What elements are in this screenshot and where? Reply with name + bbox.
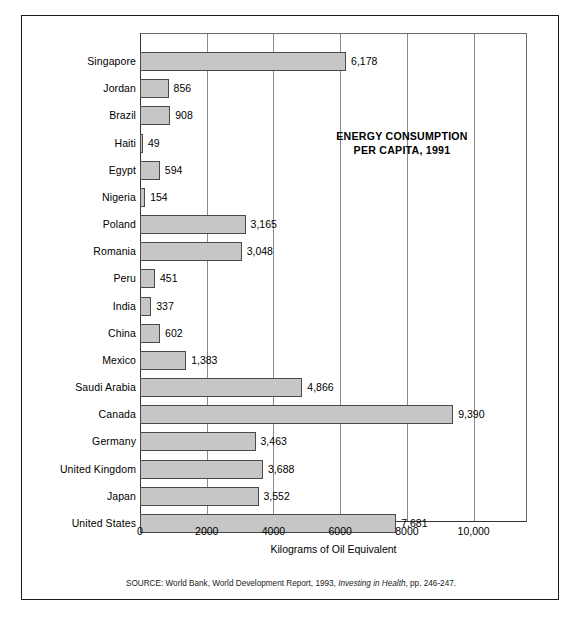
category-label-singapore: Singapore: [87, 48, 136, 75]
bar-germany[interactable]: [140, 432, 256, 451]
bar-peru[interactable]: [140, 269, 155, 288]
chart-row[interactable]: Canada9,390: [22, 401, 560, 428]
bar-value-japan: 3,552: [264, 483, 290, 510]
chart-row[interactable]: Mexico1,383: [22, 347, 560, 374]
category-label-jordan: Jordan: [103, 75, 136, 102]
x-tick-label-6000: 6000: [328, 525, 351, 537]
bar-china[interactable]: [140, 324, 160, 343]
source-suffix: , pp. 246-247.: [406, 579, 457, 588]
chart-row[interactable]: United Kingdom3,688: [22, 456, 560, 483]
category-label-united-kingdom: United Kingdom: [60, 456, 136, 483]
chart-row[interactable]: Japan3,552: [22, 483, 560, 510]
bar-jordan[interactable]: [140, 79, 169, 98]
category-label-peru: Peru: [113, 265, 136, 292]
source-title-italic: Investing in Health: [338, 579, 405, 588]
bar-nigeria[interactable]: [140, 188, 145, 207]
source-note: SOURCE: World Bank, World Development Re…: [22, 579, 560, 588]
bar-value-united-kingdom: 3,688: [268, 456, 294, 483]
chart-row[interactable]: Poland3,165: [22, 211, 560, 238]
chart-rows: Singapore6,178Jordan856Brazil908Haiti49E…: [22, 48, 560, 537]
bar-chart: Singapore6,178Jordan856Brazil908Haiti49E…: [22, 16, 560, 601]
category-label-saudi-arabia: Saudi Arabia: [75, 374, 136, 401]
x-tick-label-10000: 10,000: [458, 525, 490, 537]
category-label-japan: Japan: [107, 483, 136, 510]
category-label-haiti: Haiti: [114, 130, 136, 157]
bar-value-canada: 9,390: [458, 401, 484, 428]
chart-row[interactable]: Brazil908: [22, 102, 560, 129]
chart-title-line2: PER CAPITA, 1991: [302, 143, 502, 157]
category-label-romania: Romania: [93, 238, 136, 265]
bar-value-brazil: 908: [175, 102, 193, 129]
chart-row[interactable]: Germany3,463: [22, 428, 560, 455]
bar-value-jordan: 856: [174, 75, 192, 102]
category-label-egypt: Egypt: [109, 157, 136, 184]
bar-romania[interactable]: [140, 242, 242, 261]
bar-value-china: 602: [165, 320, 183, 347]
category-label-india: India: [113, 293, 136, 320]
source-prefix: SOURCE: World Bank, World Development Re…: [126, 579, 338, 588]
bar-value-romania: 3,048: [247, 238, 273, 265]
bar-value-mexico: 1,383: [191, 347, 217, 374]
x-axis-title: Kilograms of Oil Equivalent: [140, 543, 527, 555]
chart-row[interactable]: Saudi Arabia4,866: [22, 374, 560, 401]
bar-brazil[interactable]: [140, 106, 170, 125]
chart-row[interactable]: Romania3,048: [22, 238, 560, 265]
x-tick-label-0: 0: [137, 525, 143, 537]
bar-india[interactable]: [140, 297, 151, 316]
bar-singapore[interactable]: [140, 52, 346, 71]
bar-poland[interactable]: [140, 215, 246, 234]
bar-value-saudi-arabia: 4,866: [307, 374, 333, 401]
bar-value-germany: 3,463: [261, 428, 287, 455]
bar-mexico[interactable]: [140, 351, 186, 370]
bar-value-peru: 451: [160, 265, 178, 292]
category-label-germany: Germany: [92, 428, 136, 455]
chart-row[interactable]: Singapore6,178: [22, 48, 560, 75]
chart-title-line1: ENERGY CONSUMPTION: [302, 129, 502, 143]
bar-value-nigeria: 154: [150, 184, 168, 211]
x-tick-label-2000: 2000: [195, 525, 218, 537]
chart-row[interactable]: China602: [22, 320, 560, 347]
bar-egypt[interactable]: [140, 161, 160, 180]
chart-row[interactable]: Nigeria154: [22, 184, 560, 211]
chart-title: ENERGY CONSUMPTION PER CAPITA, 1991: [302, 129, 502, 157]
category-label-canada: Canada: [99, 401, 136, 428]
chart-row[interactable]: India337: [22, 293, 560, 320]
category-label-nigeria: Nigeria: [102, 184, 136, 211]
bar-haiti[interactable]: [140, 134, 143, 153]
bar-value-poland: 3,165: [251, 211, 277, 238]
chart-row[interactable]: Jordan856: [22, 75, 560, 102]
bar-canada[interactable]: [140, 405, 453, 424]
bar-united-kingdom[interactable]: [140, 460, 263, 479]
bar-value-haiti: 49: [148, 130, 160, 157]
x-tick-label-8000: 8000: [395, 525, 418, 537]
bar-japan[interactable]: [140, 487, 259, 506]
category-label-brazil: Brazil: [109, 102, 136, 129]
bar-saudi-arabia[interactable]: [140, 378, 302, 397]
bar-value-india: 337: [156, 293, 174, 320]
chart-row[interactable]: Egypt594: [22, 157, 560, 184]
category-label-mexico: Mexico: [102, 347, 136, 374]
category-label-poland: Poland: [103, 211, 136, 238]
chart-row[interactable]: Peru451: [22, 265, 560, 292]
bar-value-singapore: 6,178: [351, 48, 377, 75]
category-label-china: China: [108, 320, 136, 347]
x-tick-label-4000: 4000: [262, 525, 285, 537]
bar-value-egypt: 594: [165, 157, 183, 184]
figure-frame: Singapore6,178Jordan856Brazil908Haiti49E…: [21, 15, 559, 600]
x-axis-tick-labels: 0200040006000800010,000: [22, 525, 560, 541]
